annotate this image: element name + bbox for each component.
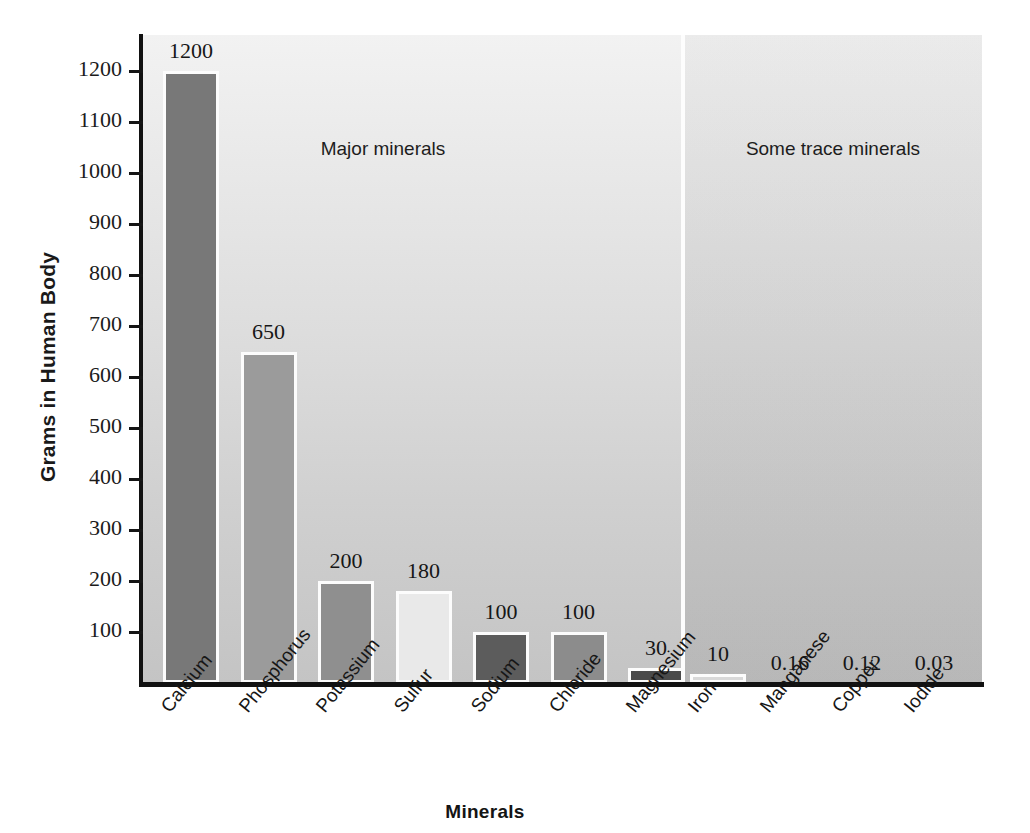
trace-minerals-background-band xyxy=(684,35,982,683)
y-tick-label: 400 xyxy=(52,464,122,490)
y-tick-label: 600 xyxy=(52,362,122,388)
bar-value-label: 100 xyxy=(529,599,629,625)
y-tick-label: 800 xyxy=(52,260,122,286)
y-tick-label: 1100 xyxy=(52,107,122,133)
y-tick-label: 300 xyxy=(52,515,122,541)
y-tick-label: 500 xyxy=(52,413,122,439)
bar-calcium xyxy=(163,71,219,683)
bar-value-label: 1200 xyxy=(141,38,241,64)
y-axis-line xyxy=(139,34,143,684)
y-tick-mark xyxy=(129,580,143,583)
group-annotation-major: Major minerals xyxy=(253,138,513,160)
y-tick-mark xyxy=(129,223,143,226)
plot-area: Major minerals Some trace minerals xyxy=(143,35,982,683)
y-tick-mark xyxy=(129,478,143,481)
y-tick-label: 100 xyxy=(52,617,122,643)
y-tick-mark xyxy=(129,427,143,430)
y-tick-mark xyxy=(129,172,143,175)
y-tick-mark xyxy=(129,274,143,277)
y-tick-mark xyxy=(129,376,143,379)
bar-value-label: 650 xyxy=(219,319,319,345)
y-tick-label: 1200 xyxy=(52,56,122,82)
bar-phosphorus xyxy=(241,352,297,684)
y-tick-mark xyxy=(129,631,143,634)
y-tick-mark xyxy=(129,121,143,124)
bar-chart: Grams in Human Body Major minerals Some … xyxy=(0,0,1030,833)
y-tick-mark xyxy=(129,529,143,532)
y-tick-mark xyxy=(129,325,143,328)
y-tick-mark xyxy=(129,70,143,73)
group-annotation-trace: Some trace minerals xyxy=(698,138,968,160)
y-tick-label: 1000 xyxy=(52,158,122,184)
bar-value-label: 0.03 xyxy=(884,650,984,676)
y-tick-label: 700 xyxy=(52,311,122,337)
group-divider xyxy=(681,35,685,683)
bar-value-label: 180 xyxy=(374,558,474,584)
y-tick-label: 200 xyxy=(52,566,122,592)
y-tick-label: 900 xyxy=(52,209,122,235)
x-axis-title: Minerals xyxy=(340,801,630,823)
